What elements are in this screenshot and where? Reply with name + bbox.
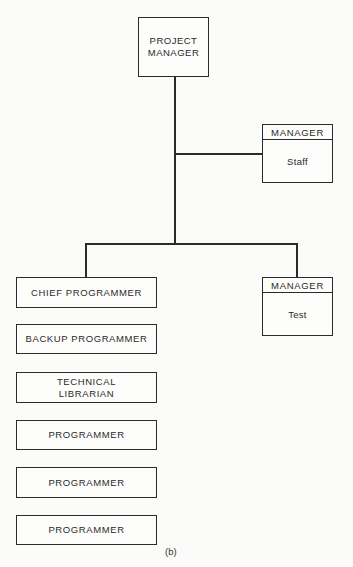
test-manager-body: Test xyxy=(263,293,332,335)
technical-librarian-label-line2: LIBRARIAN xyxy=(59,388,115,400)
chief-programmer-box: CHIEF PROGRAMMER xyxy=(16,277,157,308)
connector-test xyxy=(296,243,298,277)
chief-programmer-label: CHIEF PROGRAMMER xyxy=(31,287,142,299)
connector-root-trunk xyxy=(174,76,176,244)
connector-branch-horizontal xyxy=(85,243,297,245)
project-manager-box: PROJECT MANAGER xyxy=(138,17,209,77)
programmer-label: PROGRAMMER xyxy=(48,477,124,489)
staff-manager-box: MANAGER Staff xyxy=(262,124,333,183)
project-manager-label-line1: PROJECT xyxy=(150,35,198,47)
test-manager-box: MANAGER Test xyxy=(262,277,333,336)
staff-manager-header: MANAGER xyxy=(263,125,332,140)
technical-librarian-box: TECHNICAL LIBRARIAN xyxy=(16,372,157,403)
connector-staff xyxy=(175,153,262,155)
programmer-label: PROGRAMMER xyxy=(48,524,124,536)
programmer-box: PROGRAMMER xyxy=(16,467,157,498)
programmer-box: PROGRAMMER xyxy=(16,515,157,545)
programmer-box: PROGRAMMER xyxy=(16,420,157,450)
connector-chief xyxy=(85,243,87,277)
backup-programmer-box: BACKUP PROGRAMMER xyxy=(16,324,157,354)
test-manager-header: MANAGER xyxy=(263,278,332,293)
programmer-label: PROGRAMMER xyxy=(48,429,124,441)
technical-librarian-label-line1: TECHNICAL xyxy=(57,376,116,388)
staff-manager-body: Staff xyxy=(263,140,332,182)
backup-programmer-label: BACKUP PROGRAMMER xyxy=(26,333,148,345)
project-manager-label-line2: MANAGER xyxy=(148,47,200,59)
figure-caption: (b) xyxy=(165,546,177,557)
